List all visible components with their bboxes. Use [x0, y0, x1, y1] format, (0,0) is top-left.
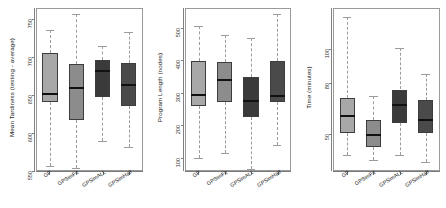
y-axis-tick-label: 300 — [176, 93, 182, 102]
panel-1: Mean Tardiness (testing - average)550600… — [0, 0, 149, 208]
boxplot-group — [217, 9, 232, 170]
whisker-upper — [400, 48, 401, 90]
plot-area — [333, 8, 440, 171]
median-line — [392, 104, 407, 106]
whisker-lower — [50, 102, 51, 166]
cap-upper — [221, 35, 229, 36]
whisker-upper — [102, 46, 103, 60]
median-line — [121, 84, 136, 86]
cap-upper — [124, 32, 132, 33]
whisker-upper — [373, 96, 374, 119]
cap-upper — [343, 17, 351, 18]
y-axis-label: Time (minutes) — [297, 0, 319, 175]
y-axis-tick-label: 100 — [176, 158, 182, 167]
y-axis-label-text: Mean Tardiness (testing - average) — [8, 38, 15, 137]
box-GPSimFit — [69, 64, 84, 119]
box-GPSimHalf — [418, 100, 433, 134]
y-axis-tick-label: 80 — [324, 83, 330, 89]
cap-lower — [46, 166, 54, 167]
cap-upper — [98, 46, 106, 47]
box-GPSimALL — [392, 90, 407, 124]
box-GPSimALL — [95, 60, 110, 97]
cap-upper — [421, 74, 429, 75]
median-line — [191, 94, 206, 96]
whisker-upper — [225, 35, 226, 62]
whisker-lower — [400, 123, 401, 155]
median-line — [418, 119, 433, 121]
cap-lower — [221, 153, 229, 154]
boxplot-group — [95, 9, 110, 170]
whisker-upper — [251, 38, 252, 77]
whisker-lower — [76, 120, 77, 168]
boxplot-group — [243, 9, 258, 170]
cap-upper — [273, 14, 281, 15]
y-axis-label: Program Length (nodes) — [149, 0, 171, 175]
median-line — [95, 70, 110, 72]
y-axis: 5080100 — [321, 8, 332, 171]
whisker-upper — [76, 14, 77, 64]
whisker-lower — [277, 102, 278, 145]
cap-lower — [421, 162, 429, 163]
boxplot-group — [366, 9, 381, 170]
y-axis-line — [34, 8, 35, 171]
x-axis-tick-labels: GPGPSimFitGPSimALLGPSimHalf — [185, 176, 292, 206]
y-axis-tick-label: 650 — [27, 95, 33, 104]
y-axis-tick-label: 750 — [27, 19, 33, 28]
whisker-upper — [277, 14, 278, 62]
whisker-upper — [50, 30, 51, 53]
boxplot-group — [418, 9, 433, 170]
cap-lower — [343, 155, 351, 156]
y-axis-tick-label: 100 — [324, 49, 330, 58]
whisker-lower — [426, 133, 427, 162]
cap-upper — [46, 30, 54, 31]
boxplot-group — [340, 9, 355, 170]
plot-area — [185, 8, 292, 171]
box-GP — [191, 61, 206, 107]
y-axis: 550600650700750 — [24, 8, 35, 171]
plot-area — [36, 8, 143, 171]
boxplot-figure: Mean Tardiness (testing - average)550600… — [0, 0, 446, 208]
y-axis: 100200300400500 — [173, 8, 184, 171]
y-axis-label-text: Program Length (nodes) — [156, 53, 163, 122]
y-axis-tick-label: 600 — [27, 133, 33, 142]
median-line — [217, 79, 232, 81]
median-line — [340, 115, 355, 117]
median-line — [270, 95, 285, 97]
y-axis-tick-label: 50 — [324, 134, 330, 140]
boxplot-group — [121, 9, 136, 170]
cap-lower — [369, 160, 377, 161]
y-axis-tick-label: 400 — [176, 60, 182, 69]
cap-upper — [369, 96, 377, 97]
boxplot-group — [69, 9, 84, 170]
boxplot-group — [270, 9, 285, 170]
cap-lower — [98, 141, 106, 142]
panel-2: Program Length (nodes)100200300400500GPG… — [149, 0, 298, 208]
cap-lower — [124, 147, 132, 148]
boxplot-group — [392, 9, 407, 170]
median-line — [243, 100, 258, 102]
median-line — [42, 93, 57, 95]
cap-upper — [194, 26, 202, 27]
whisker-upper — [347, 17, 348, 98]
whisker-lower — [373, 147, 374, 160]
whisker-upper — [199, 26, 200, 61]
y-axis-label-text: Time (minutes) — [305, 66, 312, 108]
cap-upper — [72, 14, 80, 15]
median-line — [69, 87, 84, 89]
whisker-lower — [225, 102, 226, 154]
cap-lower — [273, 145, 281, 146]
x-axis-tick-labels: GPGPSimFitGPSimALLGPSimHalf — [36, 176, 143, 206]
whisker-lower — [102, 97, 103, 141]
x-axis-tick-labels: GPGPSimFitGPSimALLGPSimHalf — [333, 176, 440, 206]
panel-3: Time (minutes)5080100GPGPSimFitGPSimALLG… — [297, 0, 446, 208]
cap-lower — [194, 158, 202, 159]
y-axis-tick-label: 500 — [176, 28, 182, 37]
y-axis-line — [331, 8, 332, 171]
y-axis-tick-label: 700 — [27, 57, 33, 66]
y-axis-label: Mean Tardiness (testing - average) — [0, 0, 22, 175]
y-axis-tick-label: 200 — [176, 125, 182, 134]
boxplot-group — [191, 9, 206, 170]
whisker-lower — [347, 133, 348, 155]
median-line — [366, 134, 381, 136]
whisker-upper — [129, 32, 130, 63]
